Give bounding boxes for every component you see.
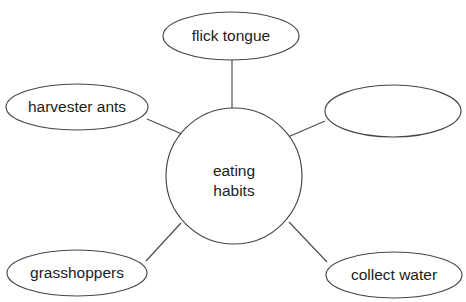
- connector-collect-water: [289, 222, 327, 262]
- diagram-canvas: flick tongue harvester ants grasshoppers…: [0, 0, 466, 302]
- node-harvester-ants[interactable]: harvester ants: [6, 84, 148, 130]
- node-blank-right[interactable]: [325, 85, 461, 137]
- node-center-eating-habits[interactable]: eating habits: [166, 108, 302, 244]
- node-flick-tongue-label: flick tongue: [192, 27, 270, 44]
- node-collect-water-label: collect water: [351, 266, 437, 283]
- center-label-line-2: habits: [213, 182, 255, 199]
- node-grasshoppers[interactable]: grasshoppers: [7, 250, 147, 296]
- node-collect-water[interactable]: collect water: [326, 252, 462, 298]
- node-grasshoppers-label: grasshoppers: [30, 264, 124, 281]
- bubble-map-diagram: flick tongue harvester ants grasshoppers…: [0, 0, 466, 302]
- node-harvester-ants-label: harvester ants: [28, 98, 126, 115]
- node-flick-tongue[interactable]: flick tongue: [163, 12, 299, 60]
- connector-harvester-ants: [147, 119, 182, 134]
- node-blank-right-ellipse[interactable]: [325, 85, 461, 137]
- connector-blank-right: [288, 121, 325, 137]
- center-label-line-1: eating: [213, 162, 255, 179]
- connector-grasshoppers: [146, 223, 181, 261]
